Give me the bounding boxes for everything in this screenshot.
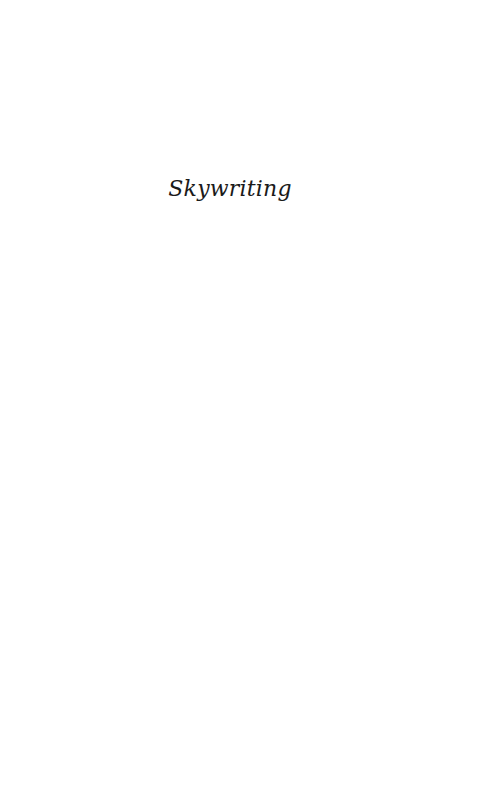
half-title: Skywriting [0,174,460,204]
book-page: Skywriting [0,0,489,804]
